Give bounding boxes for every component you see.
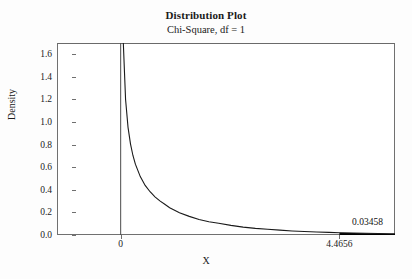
- y-tick-label: 0.4: [24, 185, 52, 195]
- y-tick-label: 1.0: [24, 117, 52, 127]
- y-tick-label: 0.0: [24, 230, 52, 240]
- distribution-plot-screenshot: Distribution Plot Chi-Square, df = 1 1.6…: [0, 0, 412, 279]
- y-tick-mark: [72, 54, 76, 55]
- chart-subtitle: Chi-Square, df = 1: [0, 23, 412, 37]
- page-title: Distribution Plot: [0, 8, 412, 22]
- y-tick-mark: [72, 190, 76, 191]
- title-block: Distribution Plot Chi-Square, df = 1: [0, 8, 412, 37]
- y-tick-label: 0.6: [24, 162, 52, 172]
- y-tick-label: 1.6: [24, 49, 52, 59]
- y-tick-label: 0.2: [24, 207, 52, 217]
- y-tick-mark: [72, 235, 76, 236]
- y-tick-mark: [72, 145, 76, 146]
- x-tick-mark: [339, 235, 340, 239]
- y-axis-title: Density: [6, 89, 17, 120]
- y-tick-mark: [72, 212, 76, 213]
- x-tick-label: 4.4656: [326, 239, 352, 250]
- y-tick-label: 1.2: [24, 94, 52, 104]
- x-tick-label: 0: [118, 239, 123, 250]
- y-axis-ticks: 1.61.41.21.00.80.60.40.20.0: [20, 0, 52, 279]
- y-tick-mark: [72, 99, 76, 100]
- x-tick-mark: [121, 235, 122, 239]
- y-tick-mark: [72, 167, 76, 168]
- y-tick-label: 0.8: [24, 140, 52, 150]
- y-tick-mark: [72, 77, 76, 78]
- y-tick-mark: [72, 122, 76, 123]
- tail-area-annotation: 0.03458: [352, 217, 383, 227]
- x-axis-title: X: [0, 255, 412, 266]
- plot-canvas: [57, 43, 395, 235]
- y-tick-label: 1.4: [24, 72, 52, 82]
- density-curve: [123, 43, 395, 234]
